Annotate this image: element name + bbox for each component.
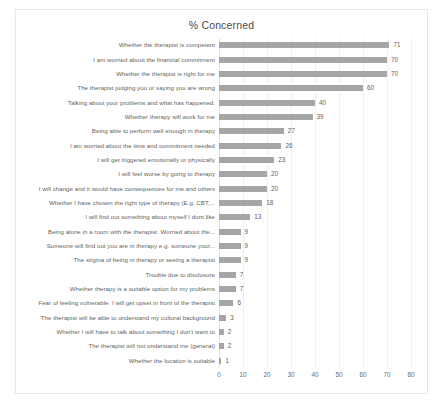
bar[interactable]: [219, 286, 236, 292]
plot-area: Whether the therapist is competent71I am…: [219, 38, 411, 368]
x-axis-tick-labels: 01020304050607080: [219, 372, 411, 386]
bar-row[interactable]: I am worried about the financial commitm…: [219, 52, 411, 67]
value-label: 27: [288, 128, 295, 134]
category-label: Whether the therapist is right for me: [116, 71, 215, 77]
category-label: Whether the location is suitable: [129, 358, 215, 364]
value-label: 9: [245, 229, 249, 235]
value-label: 7: [240, 286, 244, 292]
category-label: I am worried about the financial commitm…: [93, 56, 215, 62]
bar-row[interactable]: The therapist will be able to understand…: [219, 310, 411, 325]
x-tick-label: 60: [359, 372, 366, 378]
bar-row[interactable]: Whether I have chosen the right type of …: [219, 196, 411, 211]
value-label: 39: [317, 114, 324, 120]
x-tick-label: 20: [263, 372, 270, 378]
value-label: 3: [230, 315, 234, 321]
value-label: 2: [228, 329, 232, 335]
bar[interactable]: [219, 85, 363, 91]
bar[interactable]: [219, 272, 236, 278]
category-label: I will get triggered emotionally or phys…: [97, 157, 215, 163]
bar-row[interactable]: Being alone in a room with the therapist…: [219, 224, 411, 239]
value-label: 18: [266, 200, 273, 206]
bar[interactable]: [219, 257, 241, 263]
category-label: I will feel worse by going to therapy: [118, 171, 215, 177]
bar-row[interactable]: The stigma of being in therapy or seeing…: [219, 253, 411, 268]
bar[interactable]: [219, 214, 250, 220]
bar[interactable]: [219, 100, 315, 106]
category-label: Whether the therapist is competent: [119, 42, 215, 48]
category-label: The therapist will be able to understand…: [41, 315, 215, 321]
x-tick-label: 10: [239, 372, 246, 378]
value-label: 60: [367, 85, 374, 91]
value-label: 9: [245, 243, 249, 249]
chart-frame: % Concerned Whether the therapist is com…: [15, 9, 428, 394]
category-label: The therapist will not understand me (ge…: [88, 343, 215, 349]
bar[interactable]: [219, 128, 284, 134]
bar-row[interactable]: I will change and it would have conseque…: [219, 181, 411, 196]
value-label: 20: [271, 185, 278, 191]
bar-row[interactable]: I will get triggered emotionally or phys…: [219, 152, 411, 167]
value-label: 7: [240, 272, 244, 278]
value-label: 1: [225, 358, 229, 364]
value-label: 71: [393, 42, 400, 48]
x-tick-label: 50: [335, 372, 342, 378]
bar-row[interactable]: Whether I will have to talk about someth…: [219, 325, 411, 340]
bar-row[interactable]: Trouble due to disclosure7: [219, 267, 411, 282]
bar[interactable]: [219, 186, 267, 192]
bar-row[interactable]: Being able to perform well enough in the…: [219, 124, 411, 139]
category-label: Talking about your problems and what has…: [68, 100, 215, 106]
bar[interactable]: [219, 157, 274, 163]
gridline-80: [411, 38, 412, 368]
category-label: The stigma of being in therapy or seeing…: [74, 257, 215, 263]
bar-row[interactable]: I will feel worse by going to therapy20: [219, 167, 411, 182]
value-label: 6: [237, 300, 241, 306]
bar[interactable]: [219, 114, 313, 120]
bar[interactable]: [219, 171, 267, 177]
x-tick-label: 80: [407, 372, 414, 378]
category-label: I will find out something about myself I…: [85, 214, 215, 220]
bar-row[interactable]: The therapist judging you or saying you …: [219, 81, 411, 96]
bar-row[interactable]: Whether therapy is a suitable option for…: [219, 282, 411, 297]
value-label: 9: [245, 257, 249, 263]
bar-row[interactable]: Whether the location is suitable1: [219, 353, 411, 368]
category-label: Trouble due to disclosure: [146, 272, 215, 278]
bar[interactable]: [219, 57, 387, 63]
value-label: 23: [278, 157, 285, 163]
bar[interactable]: [219, 343, 224, 349]
bar[interactable]: [219, 143, 281, 149]
bar-rows: Whether the therapist is competent71I am…: [219, 38, 411, 368]
category-label: Whether I have chosen the right type of …: [49, 200, 215, 206]
category-label: The therapist judging you or saying you …: [77, 85, 215, 91]
bar-row[interactable]: I am worried about the time and commitme…: [219, 138, 411, 153]
chart-title: % Concerned: [16, 19, 427, 31]
category-label: Being able to perform well enough in the…: [92, 128, 215, 134]
bar[interactable]: [219, 315, 226, 321]
bar-row[interactable]: Talking about your problems and what has…: [219, 95, 411, 110]
bar[interactable]: [219, 71, 387, 77]
value-label: 70: [391, 71, 398, 77]
category-label: Fear of feeling vulnerable. I will get u…: [38, 300, 215, 306]
x-tick-label: 40: [311, 372, 318, 378]
bar-row[interactable]: Whether therapy will work for me39: [219, 109, 411, 124]
bar[interactable]: [219, 42, 389, 48]
bar[interactable]: [219, 243, 241, 249]
bar-row[interactable]: Fear of feeling vulnerable. I will get u…: [219, 296, 411, 311]
x-tick-label: 0: [217, 372, 221, 378]
x-tick-label: 70: [383, 372, 390, 378]
value-label: 20: [271, 171, 278, 177]
bar[interactable]: [219, 200, 262, 206]
category-label: I will change and it would have conseque…: [39, 186, 215, 192]
bar[interactable]: [219, 229, 241, 235]
bar-row[interactable]: Whether the therapist is competent71: [219, 38, 411, 53]
bar-row[interactable]: Whether the therapist is right for me70: [219, 66, 411, 81]
category-label: Whether therapy will work for me: [125, 114, 215, 120]
bar[interactable]: [219, 329, 224, 335]
value-label: 40: [319, 99, 326, 105]
bar-row[interactable]: Someone will find out you are in therapy…: [219, 239, 411, 254]
bar[interactable]: [219, 300, 233, 306]
x-tick-label: 30: [287, 372, 294, 378]
bar[interactable]: [219, 358, 221, 364]
category-label: I am worried about the time and commitme…: [70, 143, 215, 149]
bar-row[interactable]: The therapist will not understand me (ge…: [219, 339, 411, 354]
bar-row[interactable]: I will find out something about myself I…: [219, 210, 411, 225]
category-label: Whether I will have to talk about someth…: [56, 329, 215, 335]
